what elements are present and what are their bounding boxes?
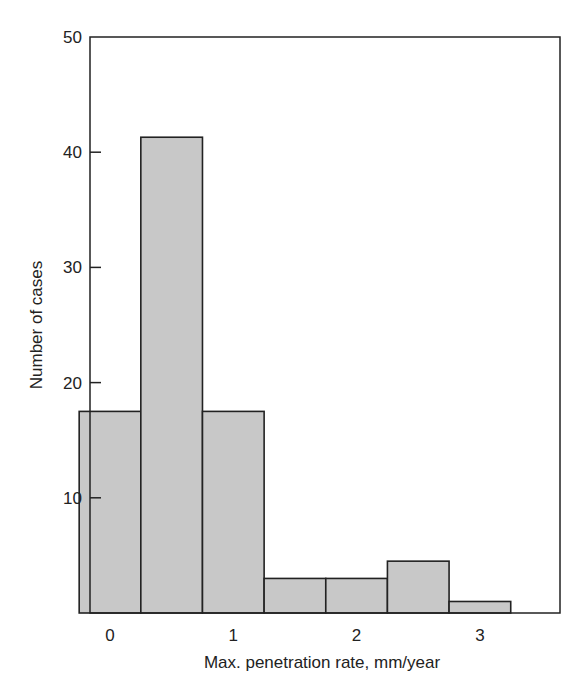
histogram-bar <box>202 411 264 613</box>
histogram-chart: 1020304050 0123 Max. penetration rate, m… <box>0 0 583 699</box>
y-tick-label: 20 <box>63 374 82 393</box>
x-tick-label: 3 <box>475 626 484 645</box>
x-tick-label: 1 <box>229 626 238 645</box>
x-tick-label: 0 <box>105 626 114 645</box>
histogram-bars <box>79 137 511 613</box>
histogram-bar <box>326 578 388 613</box>
histogram-bar <box>264 578 326 613</box>
histogram-bar <box>387 561 449 613</box>
y-tick-label: 50 <box>63 28 82 47</box>
histogram-bar <box>449 601 511 613</box>
y-tick-label: 10 <box>63 489 82 508</box>
y-tick-label: 40 <box>63 143 82 162</box>
y-tick-label: 30 <box>63 258 82 277</box>
x-axis-ticks: 0123 <box>105 626 484 645</box>
x-axis-title: Max. penetration rate, mm/year <box>204 653 441 672</box>
histogram-bar <box>141 137 203 613</box>
x-tick-label: 2 <box>352 626 361 645</box>
histogram-bar <box>79 411 141 613</box>
y-axis-title: Number of cases <box>27 261 46 390</box>
